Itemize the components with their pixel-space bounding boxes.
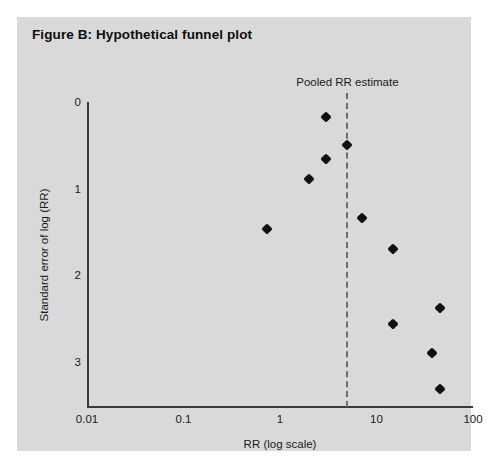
x-axis-line [87, 406, 473, 408]
study-data-point [427, 347, 438, 358]
x-tick-label: 1 [277, 413, 283, 425]
study-data-point [388, 243, 399, 254]
x-axis-title: RR (log scale) [244, 438, 317, 450]
y-tick-label: 3 [75, 356, 87, 368]
study-data-point [434, 384, 445, 395]
y-tick-label: 0 [75, 96, 87, 108]
study-data-point [356, 212, 367, 223]
study-data-point [303, 173, 314, 184]
figure-panel: Figure B: Hypothetical funnel plot Stand… [17, 17, 471, 451]
y-tick-label: 1 [75, 183, 87, 195]
y-axis-title: Standard error of log (RR) [38, 189, 50, 322]
x-tick-label: 100 [463, 413, 482, 425]
y-tick-label: 2 [75, 269, 87, 281]
x-tick-label: 10 [370, 413, 383, 425]
funnel-plot-canvas: Standard error of log (RR) RR (log scale… [17, 17, 471, 451]
study-data-point [388, 319, 399, 330]
x-tick-label: 0.1 [176, 413, 192, 425]
study-data-point [342, 140, 353, 151]
x-tick-label: 0.01 [76, 413, 98, 425]
y-axis-line [87, 102, 89, 408]
study-data-point [320, 153, 331, 164]
study-data-point [261, 223, 272, 234]
pooled-rr-label: Pooled RR estimate [296, 76, 398, 88]
study-data-point [320, 111, 331, 122]
study-data-point [434, 302, 445, 313]
